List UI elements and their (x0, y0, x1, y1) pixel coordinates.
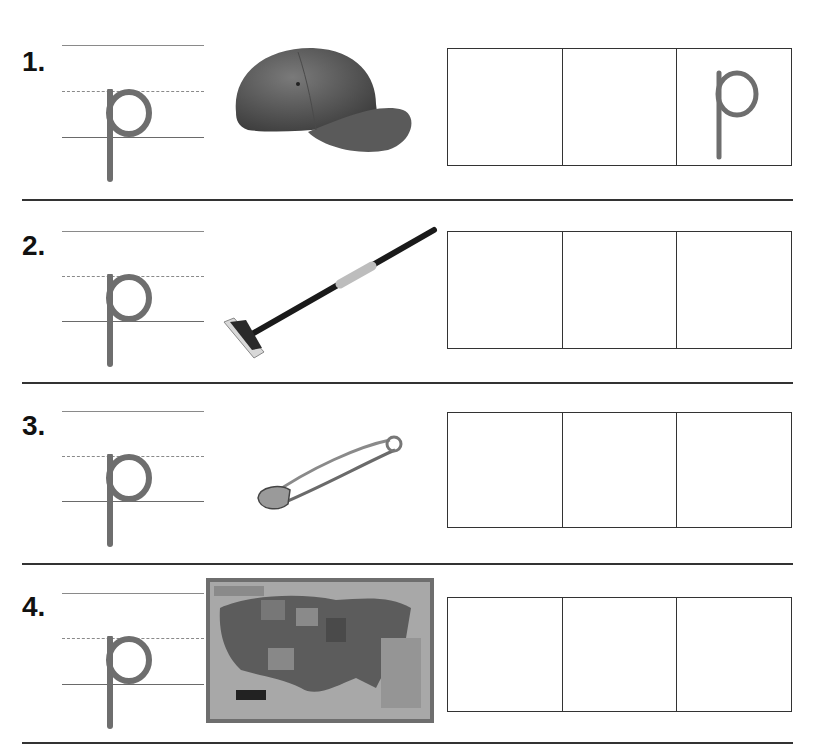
mop-image (212, 222, 442, 367)
sound-box-1[interactable] (448, 49, 563, 165)
sound-boxes (447, 231, 792, 349)
row-divider (22, 199, 793, 201)
letter-p-model (100, 454, 160, 554)
safety-pin-image (250, 428, 410, 518)
sound-box-1[interactable] (448, 413, 563, 527)
sound-box-1[interactable] (448, 232, 563, 348)
sound-box-3[interactable] (677, 413, 791, 527)
row-divider (22, 382, 793, 384)
item-number: 3. (22, 412, 45, 440)
sound-boxes (447, 412, 792, 528)
sound-box-3[interactable] (677, 232, 791, 348)
handwriting-guide (62, 411, 204, 551)
handwriting-guide (62, 45, 204, 185)
sound-boxes (447, 597, 792, 712)
sound-box-3[interactable] (677, 598, 791, 711)
baseball-cap-image (228, 42, 418, 157)
row-divider (22, 742, 793, 744)
item-number: 4. (22, 593, 45, 621)
handwriting-guide (62, 231, 204, 371)
sound-boxes (447, 48, 792, 166)
sound-box-1[interactable] (448, 598, 563, 711)
item-number: 2. (22, 232, 45, 260)
sound-box-2[interactable] (563, 49, 678, 165)
handwriting-guide (62, 593, 204, 733)
sound-box-2[interactable] (563, 232, 678, 348)
sound-box-2[interactable] (563, 413, 678, 527)
letter-p-in-box (711, 69, 761, 164)
row-divider (22, 563, 793, 565)
letter-p-model (100, 636, 160, 736)
item-number: 1. (22, 48, 45, 76)
sound-box-2[interactable] (563, 598, 678, 711)
letter-p-model (100, 89, 160, 189)
map-image (206, 578, 434, 723)
letter-p-model (100, 274, 160, 374)
sound-box-3[interactable] (677, 49, 791, 165)
